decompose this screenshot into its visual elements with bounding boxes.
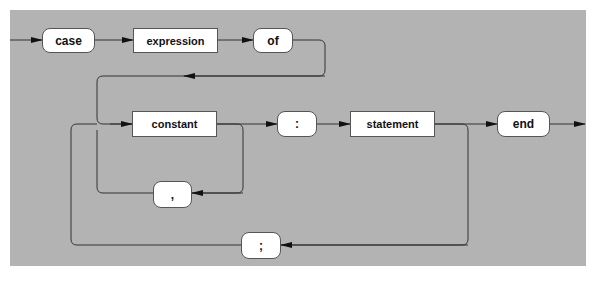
constant-node: constant xyxy=(132,111,217,137)
statement-node: statement xyxy=(350,111,435,137)
semicolon-node: ; xyxy=(241,232,281,259)
of-keyword-node: of xyxy=(253,28,293,53)
comma-node: , xyxy=(153,181,192,208)
case-keyword-node: case xyxy=(42,28,95,53)
expression-node: expression xyxy=(133,28,218,53)
end-keyword-node: end xyxy=(497,111,550,137)
colon-node: : xyxy=(277,111,317,137)
